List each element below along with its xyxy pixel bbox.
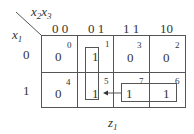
cell-5-index: 5 [104,77,109,86]
column-variables-label: x2x3 [31,5,52,23]
row-variable-label: x1 [12,28,22,46]
cell-1-index: 1 [105,40,110,49]
col-header-11: 1 1 [123,22,139,35]
col-header-10: 10 [160,22,173,35]
cell-4-index: 4 [66,78,71,87]
row-header-0: 0 [23,48,30,61]
cell-2-index: 2 [175,41,180,50]
horizontal-group-loop [121,83,177,102]
cell-3-index: 3 [137,41,142,50]
cell-0-value: 0 [55,50,62,63]
cell-0-index: 0 [67,41,72,50]
col-header-00: 0 0 [52,22,68,35]
grid-divider [42,72,185,73]
arrow-icon [100,88,124,98]
cell-3-value: 0 [127,51,134,64]
vertical-group-loop [85,47,99,100]
map-caption: z1 [108,116,118,134]
row-header-1: 1 [23,84,30,97]
col-header-01: 0 1 [88,22,104,35]
cell-2-value: 0 [163,51,170,64]
cell-4-value: 0 [55,87,62,100]
